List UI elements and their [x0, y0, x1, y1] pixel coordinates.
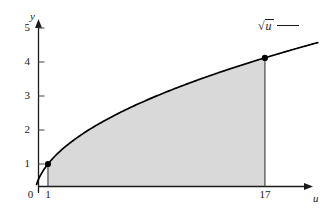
data-point-u-1: [45, 161, 51, 167]
shaded-area-under-curve: [48, 58, 265, 187]
plot-figure: y u 543210117 √u: [0, 0, 335, 222]
legend-entry-label: √u: [258, 18, 274, 32]
y-axis-ticks: [39, 28, 45, 164]
radicand: u: [265, 19, 274, 32]
y-tick-label-3: 3: [16, 89, 30, 101]
y-tick-label-2: 2: [16, 123, 30, 135]
radical-sign: √: [258, 19, 265, 33]
legend: √u: [258, 18, 299, 32]
x-tick-label-1: 1: [38, 188, 58, 200]
x-tick-label-17: 17: [255, 188, 275, 200]
sqrt-symbol-wrap: √u: [258, 18, 274, 32]
x-axis-label: u: [313, 192, 319, 204]
y-axis: [35, 19, 42, 193]
y-axis-label: y: [30, 10, 35, 22]
data-point-u-17: [262, 55, 268, 61]
y-tick-label-5: 5: [16, 21, 30, 33]
y-tick-label-1: 1: [16, 157, 30, 169]
legend-line-swatch: [277, 25, 299, 26]
y-tick-label-4: 4: [16, 55, 30, 67]
